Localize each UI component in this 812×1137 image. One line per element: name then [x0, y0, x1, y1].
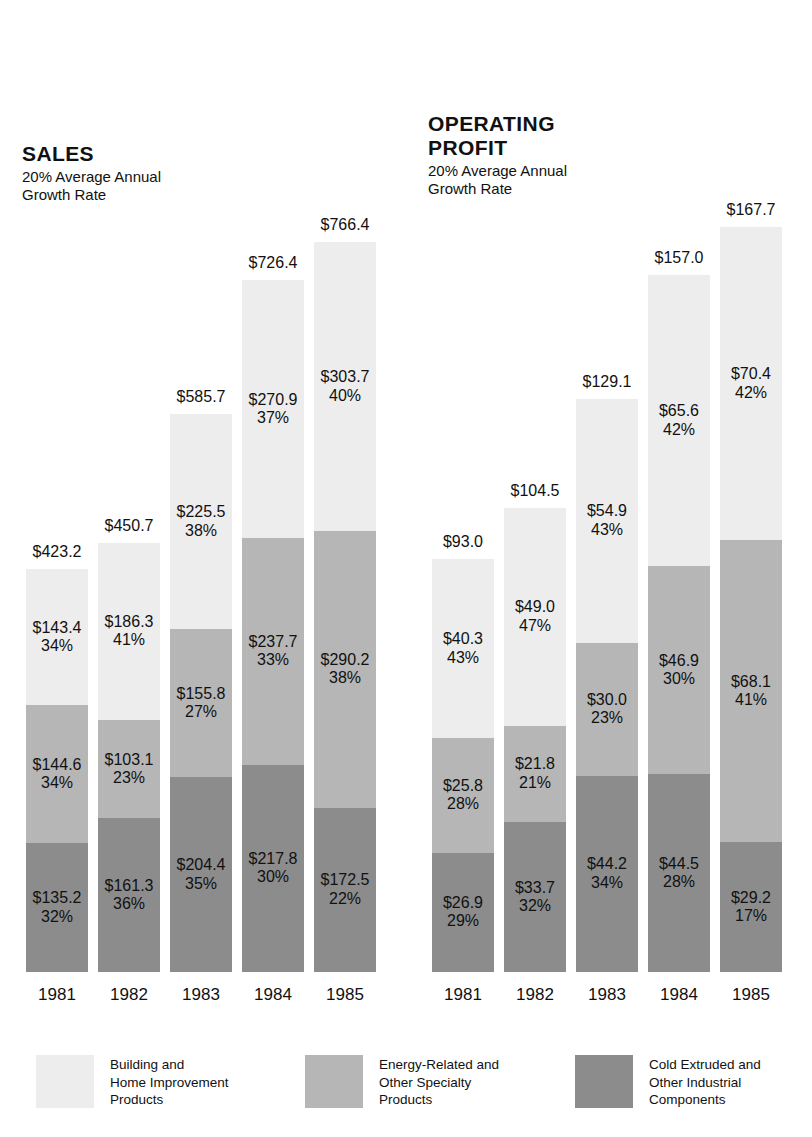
segment-amount: $70.4: [731, 365, 771, 382]
bar-segment-light[interactable]: $225.538%: [170, 414, 232, 629]
bar-segment-mid[interactable]: $46.930%: [648, 566, 710, 774]
stacked-bar[interactable]: $270.937%$237.733%$217.830%: [242, 280, 304, 972]
segment-amount: $44.2: [587, 855, 627, 872]
x-axis-tick-label: 1984: [648, 985, 710, 1005]
segment-amount: $172.5: [321, 871, 370, 888]
segment-amount: $46.9: [659, 652, 699, 669]
bar-group[interactable]: $65.642%$46.930%$44.528%$157.01984: [648, 235, 710, 972]
bar-segment-dark[interactable]: $44.234%: [576, 776, 638, 972]
stacked-bar[interactable]: $303.740%$290.238%$172.522%: [314, 242, 376, 972]
stacked-bar[interactable]: $225.538%$155.827%$204.435%: [170, 414, 232, 972]
stacked-bar[interactable]: $40.343%$25.828%$26.929%: [432, 559, 494, 972]
bar-group[interactable]: $49.047%$21.821%$33.732%$104.51982: [504, 468, 566, 972]
bar-segment-mid[interactable]: $155.827%: [170, 629, 232, 777]
segment-value-label: $29.217%: [720, 889, 782, 926]
segment-percent: 28%: [648, 873, 710, 892]
segment-value-label: $26.929%: [432, 894, 494, 931]
bar-segment-dark[interactable]: $217.830%: [242, 765, 304, 972]
bar-group[interactable]: $270.937%$237.733%$217.830%$726.41984: [242, 240, 304, 972]
segment-percent: 27%: [170, 703, 232, 722]
segment-percent: 23%: [98, 769, 160, 788]
bar-total-label: $93.0: [432, 533, 494, 551]
segment-percent: 38%: [314, 669, 376, 688]
bar-total-label: $766.4: [314, 216, 376, 234]
bar-segment-dark[interactable]: $29.217%: [720, 842, 782, 972]
bar-segment-mid[interactable]: $25.828%: [432, 738, 494, 853]
legend-item[interactable]: Energy-Related and Other Specialty Produ…: [305, 1055, 499, 1109]
bar-segment-light[interactable]: $270.937%: [242, 280, 304, 538]
segment-percent: 29%: [432, 912, 494, 931]
segment-percent: 40%: [314, 387, 376, 406]
stacked-bar[interactable]: $143.434%$144.634%$135.232%: [26, 569, 88, 972]
x-axis-tick-label: 1984: [242, 985, 304, 1005]
segment-amount: $44.5: [659, 855, 699, 872]
stacked-bar[interactable]: $70.442%$68.141%$29.217%: [720, 227, 782, 972]
bar-group[interactable]: $70.442%$68.141%$29.217%$167.71985: [720, 187, 782, 972]
segment-percent: 23%: [576, 709, 638, 728]
stacked-bar[interactable]: $186.341%$103.123%$161.336%: [98, 543, 160, 972]
segment-value-label: $155.827%: [170, 685, 232, 722]
segment-amount: $225.5: [177, 503, 226, 520]
bar-segment-light[interactable]: $40.343%: [432, 559, 494, 738]
bar-segment-mid[interactable]: $290.238%: [314, 531, 376, 807]
segment-percent: 36%: [98, 895, 160, 914]
bar-group[interactable]: $54.943%$30.023%$44.234%$129.11983: [576, 359, 638, 972]
bar-segment-light[interactable]: $54.943%: [576, 399, 638, 643]
bar-group[interactable]: $303.740%$290.238%$172.522%$766.41985: [314, 202, 376, 972]
bar-group[interactable]: $225.538%$155.827%$204.435%$585.71983: [170, 374, 232, 972]
bar-segment-light[interactable]: $303.740%: [314, 242, 376, 531]
x-axis-tick-label: 1982: [98, 985, 160, 1005]
bar-segment-dark[interactable]: $26.929%: [432, 853, 494, 972]
bar-segment-dark[interactable]: $33.732%: [504, 822, 566, 972]
legend-label: Building and Home Improvement Products: [110, 1055, 229, 1109]
segment-value-label: $204.435%: [170, 856, 232, 893]
legend-item[interactable]: Building and Home Improvement Products: [36, 1055, 229, 1109]
x-axis-tick-label: 1983: [576, 985, 638, 1005]
bar-segment-mid[interactable]: $103.123%: [98, 720, 160, 818]
legend-label: Cold Extruded and Other Industrial Compo…: [649, 1055, 761, 1109]
bar-segment-mid[interactable]: $30.023%: [576, 643, 638, 776]
bar-segment-mid[interactable]: $21.821%: [504, 726, 566, 823]
segment-value-label: $68.141%: [720, 673, 782, 710]
segment-value-label: $21.821%: [504, 755, 566, 792]
segment-percent: 42%: [648, 421, 710, 440]
bar-segment-mid[interactable]: $237.733%: [242, 538, 304, 764]
bar-segment-dark[interactable]: $135.232%: [26, 843, 88, 972]
bar-segment-dark[interactable]: $44.528%: [648, 774, 710, 972]
bar-total-label: $585.7: [170, 388, 232, 406]
legend-item[interactable]: Cold Extruded and Other Industrial Compo…: [575, 1055, 761, 1109]
bar-segment-dark[interactable]: $172.522%: [314, 808, 376, 972]
bar-segment-light[interactable]: $49.047%: [504, 508, 566, 726]
segment-value-label: $225.538%: [170, 503, 232, 540]
segment-amount: $40.3: [443, 630, 483, 647]
x-axis-tick-label: 1985: [720, 985, 782, 1005]
stacked-bar[interactable]: $65.642%$46.930%$44.528%: [648, 275, 710, 972]
bar-segment-mid[interactable]: $144.634%: [26, 705, 88, 843]
legend-swatch-icon: [575, 1055, 633, 1108]
bar-segment-mid[interactable]: $68.141%: [720, 540, 782, 842]
segment-amount: $155.8: [177, 685, 226, 702]
stacked-bar[interactable]: $49.047%$21.821%$33.732%: [504, 508, 566, 972]
bar-group[interactable]: $143.434%$144.634%$135.232%$423.21981: [26, 529, 88, 972]
segment-value-label: $25.828%: [432, 777, 494, 814]
segment-percent: 43%: [432, 649, 494, 668]
bar-segment-dark[interactable]: $204.435%: [170, 777, 232, 972]
segment-percent: 28%: [432, 795, 494, 814]
segment-amount: $143.4: [33, 619, 82, 636]
stacked-bar[interactable]: $54.943%$30.023%$44.234%: [576, 399, 638, 972]
bar-group[interactable]: $186.341%$103.123%$161.336%$450.71982: [98, 503, 160, 972]
bar-segment-light[interactable]: $186.341%: [98, 543, 160, 720]
segment-amount: $26.9: [443, 894, 483, 911]
segment-percent: 43%: [576, 521, 638, 540]
bar-segment-light[interactable]: $70.442%: [720, 227, 782, 540]
bar-segment-light[interactable]: $143.434%: [26, 569, 88, 706]
bar-segment-light[interactable]: $65.642%: [648, 275, 710, 566]
segment-percent: 30%: [648, 670, 710, 689]
bar-group[interactable]: $40.343%$25.828%$26.929%$93.01981: [432, 519, 494, 972]
segment-percent: 33%: [242, 651, 304, 670]
sales-bars: $143.434%$144.634%$135.232%$423.21981$18…: [0, 0, 406, 1010]
segment-amount: $54.9: [587, 502, 627, 519]
segment-value-label: $290.238%: [314, 651, 376, 688]
bar-segment-dark[interactable]: $161.336%: [98, 818, 160, 972]
segment-amount: $144.6: [33, 756, 82, 773]
